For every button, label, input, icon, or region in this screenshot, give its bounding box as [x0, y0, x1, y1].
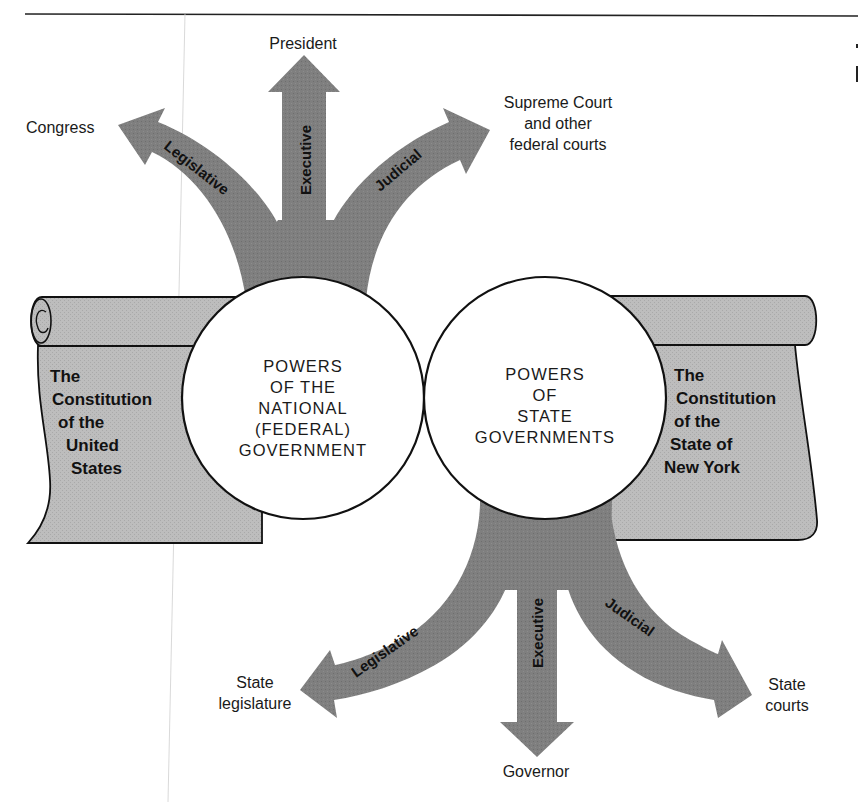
state-powers-line-3: STATE [460, 406, 630, 427]
us-constitution-line-1: The [50, 365, 152, 388]
national-powers-line-5: GOVERNMENT [223, 440, 383, 461]
target-state-legislature-line-2: legislature [210, 693, 300, 714]
us-constitution-line-5: States [50, 457, 152, 480]
target-supreme-court: Supreme Court and other federal courts [488, 92, 628, 155]
target-governor: Governor [490, 761, 582, 782]
ny-constitution-text: The Constitution of the State of New Yor… [664, 364, 776, 479]
target-state-courts-line-2: courts [752, 695, 822, 716]
us-constitution-line-3: of the [50, 411, 152, 434]
target-congress: Congress [26, 117, 112, 138]
target-president: President [258, 33, 348, 54]
ny-constitution-line-3: of the [664, 410, 776, 433]
target-supreme-court-line-1: Supreme Court [488, 92, 628, 113]
target-state-legislature: State legislature [210, 672, 300, 714]
target-state-courts: State courts [752, 674, 822, 716]
ny-constitution-line-1: The [664, 364, 776, 387]
state-powers-text: POWERS OF STATE GOVERNMENTS [460, 364, 630, 448]
state-executive-label: Executive [529, 598, 546, 668]
national-executive-label: Executive [297, 125, 314, 195]
ny-constitution-line-2: Constitution [664, 387, 776, 410]
national-powers-line-3: NATIONAL [223, 398, 383, 419]
national-branch-arrows: Legislative Executive Judicial [118, 55, 490, 300]
target-supreme-court-line-2: and other [488, 113, 628, 134]
us-constitution-text: The Constitution of the United States [50, 365, 152, 480]
target-state-courts-line-1: State [752, 674, 822, 695]
state-powers-line-4: GOVERNMENTS [460, 427, 630, 448]
national-powers-line-2: OF THE [223, 377, 383, 398]
target-state-legislature-line-1: State [210, 672, 300, 693]
national-powers-line-1: POWERS [223, 356, 383, 377]
ny-constitution-line-4: State of [664, 433, 776, 456]
national-powers-text: POWERS OF THE NATIONAL (FEDERAL) GOVERNM… [223, 356, 383, 461]
us-constitution-line-2: Constitution [50, 388, 152, 411]
target-supreme-court-line-3: federal courts [488, 134, 628, 155]
state-powers-line-2: OF [460, 385, 630, 406]
ny-constitution-line-5: New York [664, 456, 776, 479]
us-constitution-line-4: United [50, 434, 152, 457]
national-powers-line-4: (FEDERAL) [223, 419, 383, 440]
state-powers-line-1: POWERS [460, 364, 630, 385]
top-rule [25, 14, 858, 16]
